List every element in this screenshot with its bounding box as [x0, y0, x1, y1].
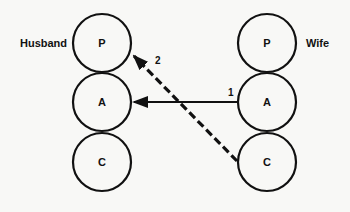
wife-label: Wife [306, 37, 329, 49]
transaction-diagram: Husband Wife P A C P A C 1 2 [0, 0, 350, 212]
wife-p: P [263, 37, 270, 49]
wife-a: A [263, 96, 271, 108]
wife-c: C [263, 156, 271, 168]
arrow-1-label: 1 [228, 87, 234, 98]
husband-p: P [98, 37, 105, 49]
husband-c: C [98, 156, 106, 168]
arrow-2-label: 2 [155, 55, 161, 66]
husband-a: A [98, 96, 106, 108]
transaction-arrow-2 [134, 56, 237, 161]
husband-label: Husband [20, 37, 67, 49]
